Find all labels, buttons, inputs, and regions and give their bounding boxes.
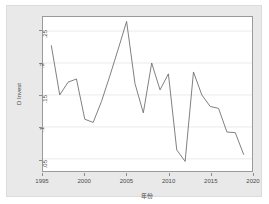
y-tick-label-0: .05 [42,160,48,168]
x-tick-label-3: 2010 [162,178,175,184]
data-series-line [51,21,243,161]
x-tick-label-1: 2000 [78,178,91,184]
y-tick-label-2: .15 [42,95,48,103]
y-axis-title: D Invest [16,83,22,105]
graph-region: .05.1.15.2.25 199520002005201020152020 D… [9,8,261,196]
chart-figure: .05.1.15.2.25 199520002005201020152020 D… [0,0,269,204]
plot-area [42,16,253,172]
y-tick-label-3: .2 [39,63,45,68]
y-tick-label-1: .1 [39,127,45,132]
x-tick-mark-0 [42,173,43,176]
x-tick-mark-2 [126,173,127,176]
x-tick-label-0: 1995 [35,178,48,184]
x-tick-label-4: 2015 [204,178,217,184]
x-tick-mark-5 [253,173,254,176]
line-chart-svg [43,17,252,171]
x-tick-mark-4 [211,173,212,176]
x-tick-mark-3 [169,173,170,176]
x-axis-title: 年份 [141,191,153,200]
x-tick-label-5: 2020 [246,178,259,184]
x-tick-mark-1 [84,173,85,176]
gridlines [43,31,252,159]
y-tick-label-4: .25 [42,30,48,38]
x-tick-label-2: 2005 [120,178,133,184]
